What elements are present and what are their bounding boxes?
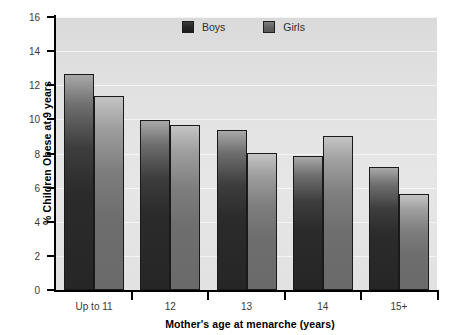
x-axis-right-cap xyxy=(437,290,439,300)
y-axis-tick xyxy=(47,118,55,120)
y-axis-tick xyxy=(47,289,55,291)
x-axis-line xyxy=(54,290,439,292)
gridline xyxy=(56,85,437,86)
y-axis-tick-label: 0 xyxy=(0,285,40,296)
bar-girls-2 xyxy=(247,153,277,290)
x-axis-tick-label: 15+ xyxy=(390,301,407,312)
x-axis-tick-label: 13 xyxy=(241,301,252,312)
y-axis-tick xyxy=(47,255,55,257)
bar-chart: % Children Obese at 9 years 024681012141… xyxy=(0,0,459,335)
x-axis-tick-label: 14 xyxy=(317,301,328,312)
y-axis-tick-label: 14 xyxy=(0,46,40,57)
y-axis-tick xyxy=(47,153,55,155)
y-axis-tick-label: 10 xyxy=(0,114,40,125)
x-axis-tick-label: 12 xyxy=(165,301,176,312)
x-axis-title: Mother's age at menarche (years) xyxy=(55,318,445,330)
plot-area xyxy=(56,17,437,290)
x-axis-tick xyxy=(207,291,209,300)
bar-boys-2 xyxy=(217,130,247,290)
bar-boys-1 xyxy=(140,120,170,290)
bar-girls-1 xyxy=(170,125,200,291)
bar-boys-4 xyxy=(369,167,399,290)
x-axis-tick xyxy=(284,291,286,300)
y-axis-tick xyxy=(47,187,55,189)
y-axis-tick-label: 16 xyxy=(0,12,40,23)
bar-boys-3 xyxy=(293,156,323,290)
legend-item-girls: Girls xyxy=(263,21,305,33)
bar-girls-4 xyxy=(399,194,429,290)
gridline xyxy=(56,51,437,52)
legend-label-boys: Boys xyxy=(202,21,225,33)
x-axis-tick xyxy=(360,291,362,300)
legend-swatch-girls-icon xyxy=(263,21,275,33)
y-axis-tick-label: 2 xyxy=(0,250,40,261)
y-axis-tick xyxy=(47,16,55,18)
gridline xyxy=(56,17,437,18)
x-axis-tick-label: Up to 11 xyxy=(76,301,113,312)
bar-girls-0 xyxy=(94,96,124,290)
bar-girls-3 xyxy=(323,136,353,290)
y-axis-tick-label: 6 xyxy=(0,182,40,193)
bar-boys-0 xyxy=(64,74,94,290)
y-axis-tick-label: 4 xyxy=(0,216,40,227)
y-axis-tick-label: 12 xyxy=(0,80,40,91)
legend-item-boys: Boys xyxy=(182,21,225,33)
y-axis-tick xyxy=(47,221,55,223)
legend: Boys Girls xyxy=(182,21,305,33)
x-axis-tick xyxy=(131,291,133,300)
legend-label-girls: Girls xyxy=(283,21,305,33)
y-axis-tick xyxy=(47,50,55,52)
y-axis-tick xyxy=(47,84,55,86)
y-axis-tick-label: 8 xyxy=(0,148,40,159)
legend-swatch-boys-icon xyxy=(182,21,194,33)
